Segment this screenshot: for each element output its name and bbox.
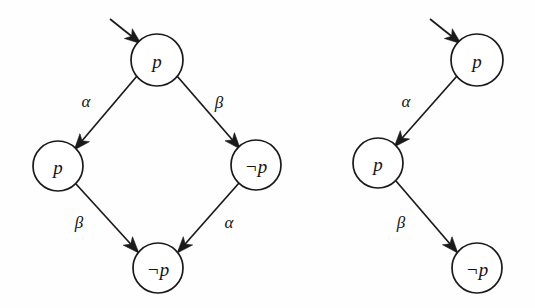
edge-left-top-to-east xyxy=(177,76,239,148)
transition-diagrams-svg: α β β α p p ¬p xyxy=(0,0,535,308)
right-diagram: α β p p ¬p xyxy=(353,19,503,293)
edge-right-top-to-mid xyxy=(396,76,458,146)
edge-label-beta-sw: β xyxy=(74,213,84,232)
node-left-west[interactable]: p xyxy=(33,141,83,191)
edge-left-west-to-bottom xyxy=(76,184,138,252)
node-label: p xyxy=(51,157,63,178)
node-right-bottom[interactable]: ¬p xyxy=(452,243,502,293)
node-left-east[interactable]: ¬p xyxy=(231,140,281,190)
initial-arrow-left xyxy=(110,19,140,43)
edge-label-alpha-upper: α xyxy=(402,92,412,111)
initial-arrow-right xyxy=(430,19,460,43)
figure-container: α β β α p p ¬p xyxy=(0,0,535,308)
edge-label-beta-ne: β xyxy=(214,93,224,112)
node-label: p xyxy=(470,51,482,72)
node-right-top[interactable]: p xyxy=(451,34,503,86)
left-diagram: α β β α p p ¬p xyxy=(33,19,281,293)
node-label: p xyxy=(371,154,383,175)
edge-label-alpha-nw: α xyxy=(82,92,92,111)
node-label: ¬p xyxy=(245,156,267,177)
edge-left-top-to-west xyxy=(76,76,138,149)
node-left-bottom[interactable]: ¬p xyxy=(133,243,183,293)
node-left-top[interactable]: p xyxy=(131,34,183,86)
edge-label-alpha-se: α xyxy=(225,213,235,232)
node-label: ¬p xyxy=(466,259,488,280)
node-right-mid[interactable]: p xyxy=(353,138,403,188)
node-label: p xyxy=(150,51,162,72)
edge-label-beta-lower: β xyxy=(396,213,406,232)
node-label: ¬p xyxy=(147,259,169,280)
